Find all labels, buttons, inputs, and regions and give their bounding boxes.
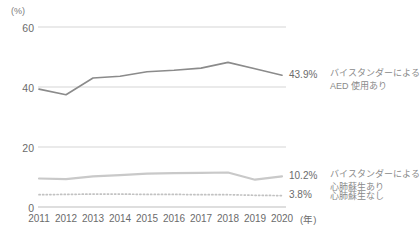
- x-axis-tick-2020: 2020: [267, 214, 297, 224]
- series-line-aed-used: [39, 62, 282, 94]
- legend-label-cpr-performed-line1: バイスタンダーによる: [330, 168, 420, 181]
- legend-label-aed-used-line2: AED 使用あり: [330, 80, 420, 93]
- x-axis-tick-2019: 2019: [240, 214, 270, 224]
- x-axis-tick-2016: 2016: [159, 214, 189, 224]
- x-axis-tick-2017: 2017: [186, 214, 216, 224]
- x-axis-tick-2018: 2018: [213, 214, 243, 224]
- x-axis-tick-2015: 2015: [132, 214, 162, 224]
- x-axis-tick-2014: 2014: [105, 214, 135, 224]
- x-axis-tick-2012: 2012: [51, 214, 81, 224]
- legend-label-no-cpr: 心肺蘇生なし: [330, 190, 384, 203]
- series-line-no-cpr: [39, 194, 282, 196]
- gridlines: [38, 27, 286, 207]
- x-axis-unit-label: (年): [300, 215, 316, 225]
- legend-label-aed-used: バイスタンダーによる AED 使用あり: [330, 67, 420, 93]
- value-label-aed-used: 43.9%: [289, 70, 317, 80]
- series-line-cpr-performed: [39, 173, 282, 180]
- x-axis-tick-2011: 2011: [24, 214, 54, 224]
- legend-label-no-cpr-line1: 心肺蘇生なし: [330, 190, 384, 203]
- x-axis-tick-2013: 2013: [78, 214, 108, 224]
- value-label-no-cpr: 3.8%: [289, 190, 312, 200]
- value-label-cpr-performed: 10.2%: [289, 171, 317, 181]
- legend-label-aed-used-line1: バイスタンダーによる: [330, 67, 420, 80]
